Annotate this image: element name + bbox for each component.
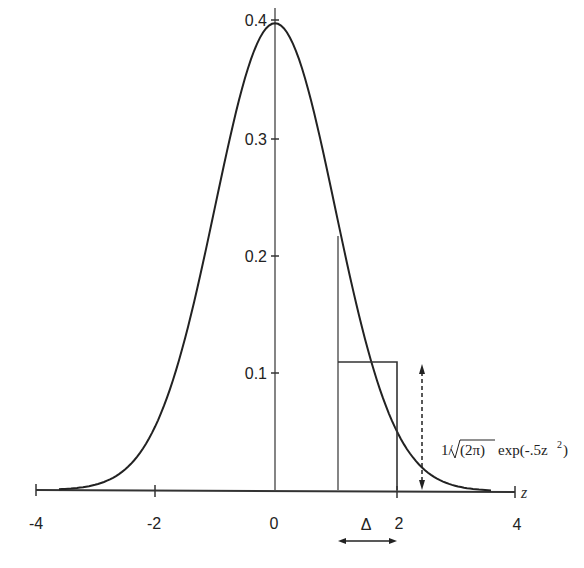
x-tick-label: -2 [147,515,161,532]
arrow-down-icon [419,480,425,490]
x-axis [36,490,515,492]
y-tick-label: 0.1 [245,365,267,382]
arrow-up-icon [419,364,425,374]
svg-text:2: 2 [557,439,562,450]
svg-text:exp(-.5z: exp(-.5z [498,442,548,459]
formula-label: 1/ (2π) exp(-.5z 2 ) [441,439,568,459]
x-tick-label: -4 [29,515,43,532]
x-axis-label: z [520,484,528,501]
x-tick-label: 2 [395,515,404,532]
approximation-rectangle [338,362,397,490]
arrow-left-icon [338,538,346,544]
arrow-right-icon [389,538,397,544]
y-tick-label: 0.3 [245,131,267,148]
svg-text:): ) [563,442,568,459]
y-tick-label: 0.2 [245,248,267,265]
delta-label: Δ [361,516,372,533]
x-tick-label: 0 [270,515,279,532]
y-tick-label: 0.4 [245,12,267,29]
normal-density-chart: -4 -2 0 2 4 0.1 0.2 0.3 0.4 z Δ 1/ (2π) … [0,0,584,568]
svg-text:(2π): (2π) [460,442,485,459]
x-tick-label: 4 [513,516,522,533]
